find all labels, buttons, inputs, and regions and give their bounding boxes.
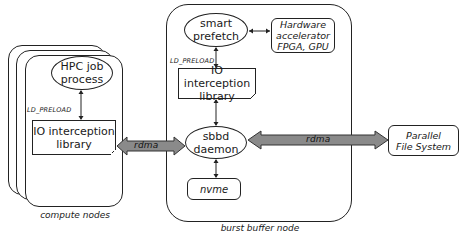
bb-io-lib-line1: IO interception: [179, 64, 255, 90]
sbbd-line1: sbbd: [194, 130, 239, 143]
hpc-job-line2: process: [61, 73, 104, 86]
hpc-job-line1: HPC job: [61, 60, 104, 73]
compute-ld-preload-label: LD_PRELOAD: [27, 106, 71, 114]
nvme-label: nvme: [200, 183, 228, 196]
left-rdma-label: rdma: [134, 140, 159, 150]
hpc-job-process: HPC job process: [51, 56, 113, 90]
pfs-line2: File System: [396, 141, 451, 152]
smart-prefetch: smart prefetch: [184, 13, 248, 47]
smart-prefetch-line1: smart: [193, 17, 239, 30]
hardware-accelerator: Hardware accelerator FPGA, GPU: [271, 18, 335, 53]
bb-io-interception-library: IO interception library: [178, 68, 256, 99]
hw-accel-line1: Hardware: [276, 19, 330, 30]
compute-io-lib-line2: library: [33, 138, 115, 151]
sbbd-daemon: sbbd daemon: [185, 126, 247, 159]
compute-io-lib-line1: IO interception: [33, 125, 115, 138]
compute-nodes-caption: compute nodes: [30, 210, 120, 220]
bb-io-lib-line2: library: [179, 90, 255, 103]
nvme-storage: nvme: [187, 178, 241, 200]
smart-prefetch-line2: prefetch: [193, 30, 239, 43]
sbbd-line2: daemon: [194, 143, 239, 156]
pfs-line1: Parallel: [396, 130, 451, 141]
hw-accel-line3: FPGA, GPU: [276, 41, 330, 52]
hw-accel-line2: accelerator: [276, 30, 330, 41]
parallel-file-system: Parallel File System: [388, 125, 459, 156]
burst-buffer-caption: burst buffer node: [200, 223, 320, 233]
right-rdma-label: rdma: [306, 134, 331, 144]
compute-io-interception-library: IO interception library: [32, 120, 116, 155]
